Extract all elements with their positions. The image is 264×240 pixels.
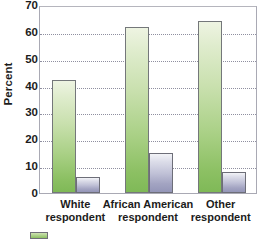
y-tick-label: 30 (14, 107, 38, 119)
y-axis-tick-labels: 010203040506070 (14, 0, 38, 200)
x-tick-label-line: White (60, 198, 90, 210)
y-axis-title: Percent (2, 54, 14, 114)
y-tick-label: 50 (14, 54, 38, 66)
bar-group (52, 7, 100, 193)
y-tick-label: 10 (14, 161, 38, 173)
bar (198, 21, 222, 193)
bar-group (125, 7, 173, 193)
bar (149, 153, 173, 193)
bar-group (198, 7, 246, 193)
x-tick-label: Otherrespondent (172, 198, 264, 225)
bar-chart: Percent 010203040506070 WhiterespondentA… (0, 0, 264, 240)
y-tick-label: 40 (14, 81, 38, 93)
x-tick-label-line: respondent (172, 211, 264, 224)
legend-green-swatch (30, 232, 48, 239)
bar (222, 172, 246, 193)
bar (125, 27, 149, 194)
chart-legend (30, 232, 54, 240)
y-tick-label: 70 (14, 0, 38, 12)
x-tick-label-line: Other (206, 198, 235, 210)
bars-layer (40, 7, 256, 193)
plot-area (39, 6, 257, 194)
bar (52, 80, 76, 193)
bar (76, 177, 100, 193)
y-tick-label: 60 (14, 27, 38, 39)
y-tick-label: 20 (14, 134, 38, 146)
x-axis-tick-labels: WhiterespondentAfrican Americanresponden… (39, 198, 257, 228)
